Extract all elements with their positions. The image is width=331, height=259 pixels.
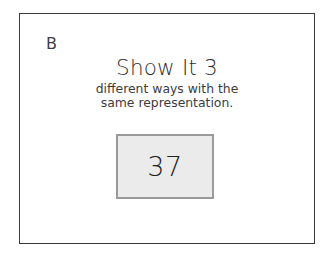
subheadline-line-1: different ways with the bbox=[19, 82, 315, 96]
panel-label: B bbox=[46, 35, 57, 52]
number-card: 37 bbox=[116, 134, 214, 199]
slide-canvas: B Show It 3 different ways with the same… bbox=[0, 0, 331, 259]
instruction-text-block: Show It 3 different ways with the same r… bbox=[19, 56, 315, 109]
number-value: 37 bbox=[147, 153, 182, 181]
subheadline-line-2: same representation. bbox=[19, 96, 315, 110]
panel-frame: B bbox=[19, 13, 315, 244]
headline-text: Show It 3 bbox=[19, 56, 315, 79]
